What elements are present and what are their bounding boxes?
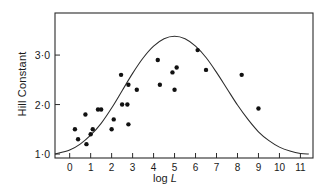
scatter-plot-figure: Hill Constant 012345678910111·02·03·0 lo… [0, 0, 330, 194]
data-point [112, 117, 116, 121]
data-point [204, 68, 208, 72]
data-point [135, 88, 139, 92]
data-point [88, 132, 92, 136]
data-point [91, 127, 95, 131]
tick-labels-layer: 012345678910111·02·03·0 [35, 49, 306, 173]
data-point [256, 106, 260, 110]
data-point [83, 112, 87, 116]
data-point [158, 83, 162, 87]
fitted-curve-layer [55, 36, 309, 154]
data-point [84, 142, 88, 146]
data-point [120, 102, 124, 106]
data-point [126, 122, 130, 126]
axes-layer [55, 13, 313, 158]
x-axis-title: log L [0, 168, 330, 186]
y-tick-label: 1·0 [35, 148, 50, 160]
data-point [172, 88, 176, 92]
x-axis-title-prefix: log [153, 172, 168, 184]
data-point [125, 102, 129, 106]
data-point [174, 65, 178, 69]
x-axis-title-symbol: L [171, 172, 177, 184]
data-point [73, 127, 77, 131]
data-point [76, 137, 80, 141]
y-tick-label: 3·0 [35, 49, 50, 61]
y-axis-title: Hill Constant [16, 24, 28, 144]
data-point [170, 70, 174, 74]
data-point [239, 73, 243, 77]
data-point [99, 107, 103, 111]
data-point [156, 58, 160, 62]
plot-frame [55, 13, 313, 158]
data-point [109, 127, 113, 131]
data-point [126, 83, 130, 87]
fitted-curve [55, 36, 309, 154]
y-tick-label: 2·0 [35, 99, 50, 111]
plot-canvas: 012345678910111·02·03·0 [0, 0, 330, 194]
data-point [119, 73, 123, 77]
data-point [195, 48, 199, 52]
